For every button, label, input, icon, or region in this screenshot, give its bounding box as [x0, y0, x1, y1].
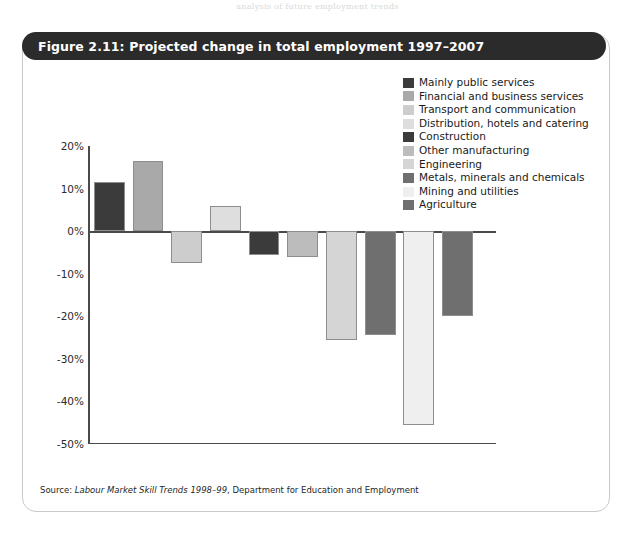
legend-swatch-icon [403, 173, 414, 183]
source-suffix: , Department for Education and Employmen… [227, 485, 419, 495]
legend-item: Financial and business services [403, 90, 603, 104]
legend-swatch-icon [403, 200, 414, 210]
legend-swatch-icon [403, 159, 414, 169]
legend-item-label: Other manufacturing [419, 144, 529, 158]
legend-item: Distribution, hotels and catering [403, 117, 603, 131]
legend-item-label: Metals, minerals and chemicals [419, 171, 585, 185]
chart-bar [287, 231, 318, 257]
y-tick-label: 20% [61, 140, 84, 152]
chart-bar [94, 182, 125, 231]
y-axis-line [88, 146, 90, 444]
legend-item: Construction [403, 130, 603, 144]
chart-legend: Mainly public servicesFinancial and busi… [403, 76, 603, 212]
legend-item-label: Transport and communication [419, 103, 576, 117]
y-tick-label: -50% [57, 438, 84, 450]
chart-bar [365, 231, 396, 335]
source-publication: Labour Market Skill Trends 1998–99 [75, 485, 227, 495]
y-tick-label: -20% [57, 310, 84, 322]
legend-swatch-icon [403, 132, 414, 142]
chart-bar [326, 231, 357, 340]
legend-item: Metals, minerals and chemicals [403, 171, 603, 185]
chart-bar [171, 231, 202, 263]
legend-item-label: Construction [419, 130, 486, 144]
legend-item: Transport and communication [403, 103, 603, 117]
y-axis-tick-labels: 20%10%0%-10%-20%-30%-40%-50% [40, 146, 84, 444]
legend-item-label: Agriculture [419, 198, 477, 212]
legend-item: Mainly public services [403, 76, 603, 90]
legend-item-label: Mining and utilities [419, 185, 519, 199]
y-tick-label: -30% [57, 353, 84, 365]
legend-swatch-icon [403, 105, 414, 115]
source-note: Source: Labour Market Skill Trends 1998–… [40, 485, 419, 495]
y-tick-label: -10% [57, 268, 84, 280]
x-axis-line [88, 443, 496, 445]
page-bleed-text: analysis of future employment trends [0, 0, 635, 16]
y-tick-label: 10% [61, 183, 84, 195]
y-tick-label: 0% [67, 225, 84, 237]
legend-swatch-icon [403, 187, 414, 197]
legend-item: Agriculture [403, 198, 603, 212]
figure-title-bar: Figure 2.11: Projected change in total e… [22, 32, 606, 60]
chart-bar [249, 231, 280, 254]
legend-item-label: Mainly public services [419, 76, 535, 90]
legend-item: Engineering [403, 158, 603, 172]
legend-swatch-icon [403, 78, 414, 88]
legend-item: Other manufacturing [403, 144, 603, 158]
legend-item-label: Distribution, hotels and catering [419, 117, 589, 131]
chart-bar [442, 231, 473, 316]
legend-item-label: Engineering [419, 158, 482, 172]
legend-swatch-icon [403, 146, 414, 156]
chart-bar [133, 161, 164, 231]
chart-bar [403, 231, 434, 425]
legend-swatch-icon [403, 91, 414, 101]
page-title: Figure 2.11: Projected change in total e… [22, 39, 484, 54]
source-prefix: Source: [40, 485, 75, 495]
legend-item-label: Financial and business services [419, 90, 584, 104]
chart-bar [210, 206, 241, 232]
y-tick-label: -40% [57, 395, 84, 407]
legend-swatch-icon [403, 119, 414, 129]
legend-item: Mining and utilities [403, 185, 603, 199]
